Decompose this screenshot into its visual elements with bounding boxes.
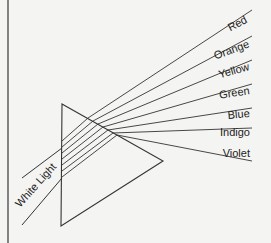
label-violet: Violet (223, 147, 250, 159)
prism-triangle (61, 104, 163, 226)
prism-diagram: Red Orange Yellow Green Blue Indigo Viol… (0, 0, 271, 243)
label-blue: Blue (227, 107, 250, 121)
internal-rays (62, 118, 117, 177)
label-red: Red (225, 13, 248, 33)
label-green: Green (218, 84, 250, 101)
label-orange: Orange (212, 38, 251, 62)
label-yellow: Yellow (217, 60, 250, 80)
label-indigo: Indigo (220, 126, 250, 138)
diagram-svg: Red Orange Yellow Green Blue Indigo Viol… (0, 0, 271, 243)
